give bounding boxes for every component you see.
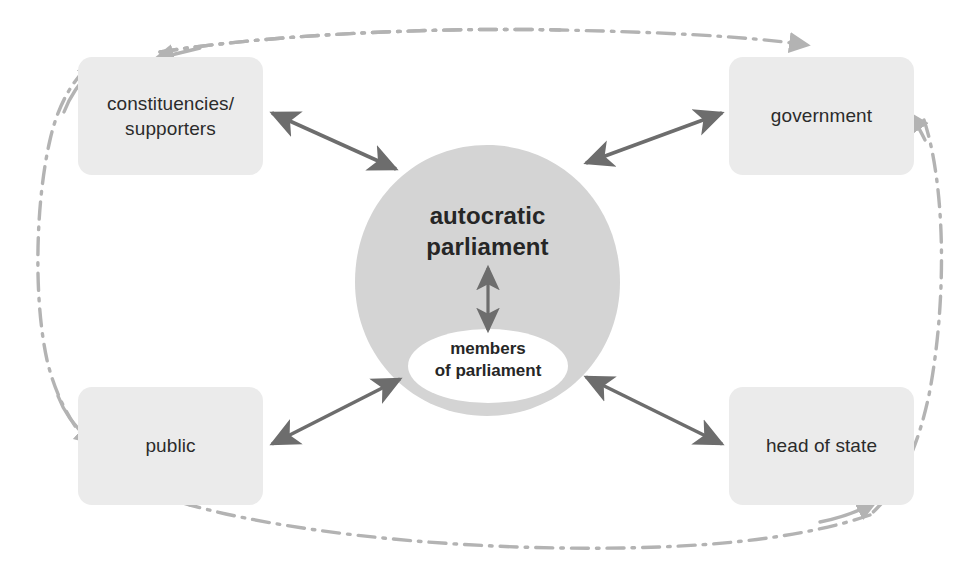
node-public[interactable]: public — [78, 387, 263, 505]
arrow-constituencies-parliament — [272, 113, 396, 169]
arrow-head-of-state-parliament — [586, 377, 722, 444]
loop-segment-bottom — [190, 505, 870, 548]
inner-label-line2: of parliament — [435, 361, 542, 380]
diagram-canvas: constituencies/supporters government pub… — [0, 0, 967, 563]
inner-label-line1: members — [450, 339, 526, 358]
center-title: autocratic parliament — [370, 200, 605, 262]
node-label: head of state — [766, 433, 877, 458]
loop-segment-top — [160, 29, 560, 52]
node-constituencies-supporters[interactable]: constituencies/supporters — [78, 57, 263, 175]
node-label: constituencies/supporters — [107, 91, 234, 141]
center-title-line1: autocratic — [430, 202, 546, 229]
center-title-line2: parliament — [426, 233, 548, 260]
node-label: public — [145, 433, 195, 458]
arrow-public-parliament — [272, 379, 400, 444]
node-head-of-state[interactable]: head of state — [729, 387, 914, 505]
inner-ellipse-label: members of parliament — [405, 338, 571, 383]
arrow-government-parliament — [586, 113, 722, 163]
node-government[interactable]: government — [729, 57, 914, 175]
node-label: government — [771, 103, 872, 128]
